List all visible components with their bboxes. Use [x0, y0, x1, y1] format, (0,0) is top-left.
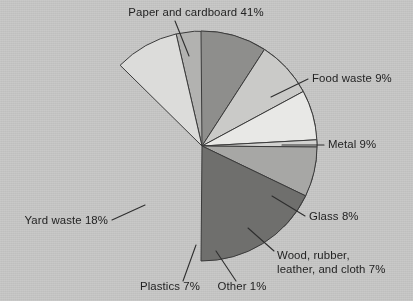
pie-slice-label: Food waste 9%	[312, 72, 392, 84]
pie-slice-label: Paper and cardboard 41%	[128, 6, 263, 18]
pie-slice-label: Yard waste 18%	[25, 214, 109, 226]
pie-slice-label: Glass 8%	[309, 210, 359, 222]
pie-chart-svg: Paper and cardboard 41%Food waste 9%Meta…	[0, 0, 413, 301]
leader-line	[183, 245, 196, 281]
pie-slice-label: Other 1%	[218, 280, 267, 292]
pie-slice-label: Metal 9%	[328, 138, 376, 150]
leader-line	[112, 205, 145, 220]
pie-slices-group	[120, 31, 317, 261]
pie-slice-label: Wood, rubber,leather, and cloth 7%	[277, 249, 386, 275]
pie-chart-figure: Paper and cardboard 41%Food waste 9%Meta…	[0, 0, 413, 301]
pie-slice-label: Plastics 7%	[140, 280, 200, 292]
